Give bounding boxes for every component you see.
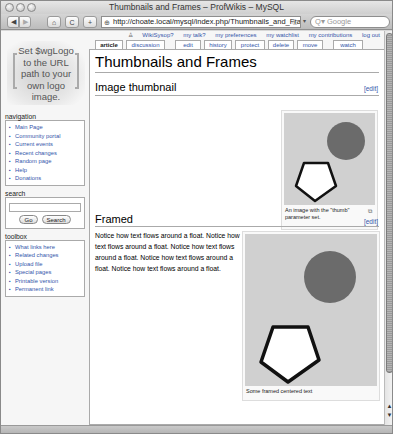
- back-arrow-icon: ◀: [11, 18, 16, 26]
- tab-protect[interactable]: protect: [235, 40, 265, 49]
- search-portlet: Go Search: [5, 197, 85, 229]
- sidebar: navigation Main Page Community portal Cu…: [5, 111, 85, 301]
- logo-line: Set $wgLogo: [7, 45, 85, 57]
- title-bar: Thumbnails and Frames – ProfWikis – MySQ…: [1, 1, 392, 14]
- section-heading-framed: Framed: [95, 213, 133, 225]
- tab-watch[interactable]: watch: [333, 40, 363, 49]
- sidebar-item-recent-changes[interactable]: Recent changes: [9, 149, 81, 158]
- edit-section-link[interactable]: [edit]: [364, 218, 378, 225]
- tab-discussion[interactable]: discussion: [126, 40, 165, 49]
- tab-edit[interactable]: edit: [175, 40, 201, 49]
- new-tab-button[interactable]: +: [83, 16, 97, 28]
- logo-line: path to your: [7, 68, 85, 80]
- reload-icon: C: [69, 19, 74, 26]
- address-bar[interactable]: ⊕ http://choate.local/mysql/index.php/Th…: [101, 16, 301, 28]
- sidebar-item-permanent-link[interactable]: Permanent link: [9, 285, 81, 294]
- sidebar-item-printable-version[interactable]: Printable version: [9, 277, 81, 286]
- sidebar-item-related-changes[interactable]: Related changes: [9, 251, 81, 260]
- scroll-up-arrow-icon[interactable]: ▲: [385, 403, 393, 409]
- framed-figure: Some framed centered text: [242, 231, 380, 401]
- sidebar-item-current-events[interactable]: Current events: [9, 140, 81, 149]
- site-logo[interactable]: Set $wgLogo to the URL path to your own …: [7, 41, 85, 105]
- sidebar-item-main-page[interactable]: Main Page: [9, 123, 81, 132]
- divider: [95, 95, 379, 96]
- go-button[interactable]: Go: [19, 215, 37, 224]
- logo-line: own logo: [7, 80, 85, 92]
- search-heading: search: [5, 190, 85, 197]
- user-link[interactable]: ♙ WikiSysop?: [120, 32, 174, 38]
- web-page: ♙ WikiSysop? my talk? my preferences my …: [1, 31, 384, 425]
- thumbnail-figure: An image with the "thumb" parameter set.…: [281, 110, 378, 230]
- logo-line: image.: [7, 91, 85, 103]
- scroll-down-arrow-icon[interactable]: ▼: [385, 412, 393, 418]
- home-button[interactable]: ⌂: [47, 16, 61, 28]
- logo-bracket-left: [13, 53, 17, 89]
- forward-arrow-icon: ▶: [23, 18, 28, 26]
- sidebar-item-random-page[interactable]: Random page: [9, 157, 81, 166]
- main-content: Thumbnails and Frames Image thumbnail [e…: [89, 49, 384, 425]
- tab-delete[interactable]: delete: [268, 40, 294, 49]
- reload-button[interactable]: C: [65, 16, 79, 28]
- sidebar-item-special-pages[interactable]: Special pages: [9, 268, 81, 277]
- logo-line: to the URL: [7, 57, 85, 69]
- log-out-link[interactable]: log out: [362, 32, 380, 38]
- divider: [95, 72, 379, 73]
- thumbnail-image[interactable]: [284, 113, 375, 205]
- divider: [95, 226, 379, 227]
- sidebar-item-community-portal[interactable]: Community portal: [9, 132, 81, 141]
- status-bar: [1, 425, 392, 434]
- globe-icon: ⊕: [104, 18, 110, 28]
- search-input[interactable]: Q▾ Google: [310, 16, 390, 28]
- back-button[interactable]: ◀: [7, 16, 19, 28]
- sidebar-item-what-links-here[interactable]: What links here: [9, 243, 81, 252]
- toolbox-portlet: What links here Related changes Upload f…: [5, 240, 85, 297]
- browser-toolbar: ◀ ▶ ⌂ C + ⊕ http://choate.local/mysql/in…: [1, 14, 392, 30]
- sidebar-item-help[interactable]: Help: [9, 166, 81, 175]
- framed-image[interactable]: [245, 234, 377, 386]
- forward-button[interactable]: ▶: [19, 16, 31, 28]
- my-contributions-link[interactable]: my contributions: [309, 32, 353, 38]
- user-icon: ♙: [128, 32, 133, 38]
- sidebar-item-donations[interactable]: Donations: [9, 174, 81, 183]
- home-icon: ⌂: [52, 19, 56, 26]
- snapback-icon[interactable]: ◎: [292, 17, 298, 27]
- vertical-scrollbar[interactable]: ▲ ▼: [384, 31, 393, 425]
- plus-icon: +: [88, 19, 92, 26]
- toolbox-heading: toolbox: [5, 233, 85, 240]
- logo-bracket-right: [75, 53, 79, 89]
- tab-move[interactable]: move: [297, 40, 323, 49]
- url-text: http://choate.local/mysql/index.php/Thum…: [113, 17, 301, 26]
- navigation-heading: navigation: [5, 113, 85, 120]
- sidebar-item-upload-file[interactable]: Upload file: [9, 260, 81, 269]
- framed-body-text: Notice how text flows around a float. No…: [95, 230, 240, 274]
- my-watchlist-link[interactable]: my watchlist: [266, 32, 299, 38]
- my-talk-link[interactable]: my talk?: [183, 32, 205, 38]
- tab-article[interactable]: article: [95, 40, 123, 49]
- chevron-down-icon[interactable]: ▾: [303, 17, 306, 24]
- scrollbar-thumb[interactable]: [386, 33, 393, 373]
- section-heading-image-thumbnail: Image thumbnail: [95, 81, 176, 93]
- tab-history[interactable]: history: [204, 40, 232, 49]
- framed-caption: Some framed centered text: [245, 386, 377, 397]
- edit-section-link[interactable]: [edit]: [364, 85, 378, 92]
- browser-window: Thumbnails and Frames – ProfWikis – MySQ…: [0, 0, 393, 434]
- page-title: Thumbnails and Frames: [95, 53, 257, 70]
- search-button[interactable]: Search: [42, 215, 71, 224]
- magnify-icon[interactable]: ⧉: [368, 208, 372, 215]
- caption-text: An image with the "thumb" parameter set.: [285, 207, 349, 220]
- window-title: Thumbnails and Frames – ProfWikis – MySQ…: [1, 2, 392, 12]
- my-preferences-link[interactable]: my preferences: [215, 32, 256, 38]
- wiki-search-input[interactable]: [9, 203, 81, 212]
- navigation-portlet: Main Page Community portal Current event…: [5, 120, 85, 186]
- thumbnail-caption: An image with the "thumb" parameter set.…: [284, 205, 375, 223]
